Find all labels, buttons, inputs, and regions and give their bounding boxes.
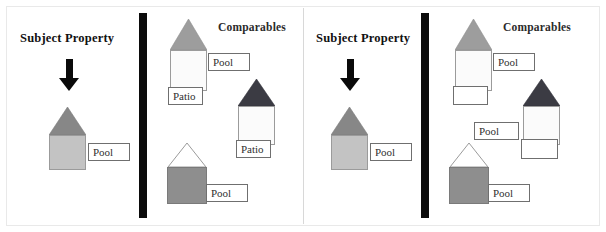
panel-left-subject-label-pool: Pool	[88, 143, 130, 161]
panel-right-comparable-1-label-blank	[453, 86, 488, 105]
panel-left-comparable-1	[170, 19, 207, 91]
roof-icon	[523, 79, 560, 106]
panel-left-divider	[139, 13, 147, 218]
panel-right-divider	[421, 13, 429, 218]
roof-icon	[170, 19, 207, 50]
panel-left-subject-house	[49, 107, 86, 170]
panel-right-comparable-1	[455, 19, 492, 91]
roof-icon	[455, 19, 492, 50]
house-body	[449, 167, 489, 204]
panel-right-comparable-3-label-pool: Pool	[488, 184, 530, 202]
house-body	[331, 135, 368, 170]
house-body	[170, 50, 207, 91]
panel-left-subject-title: Subject Property	[20, 31, 114, 46]
panel-left-comparable-1-label-patio: Patio	[168, 87, 203, 105]
comparables-diagram: Subject Property Pool Comparables Pool P…	[0, 0, 606, 232]
panel-right: Subject Property Pool Comparables Pool	[303, 0, 606, 232]
roof-outline-icon	[449, 142, 489, 168]
house-body	[167, 167, 207, 204]
house-body	[455, 50, 492, 91]
panel-right-subject-label-pool: Pool	[370, 143, 412, 161]
panel-left: Subject Property Pool Comparables Pool P…	[0, 0, 303, 232]
arrow-shaft	[347, 59, 354, 79]
panel-right-subject-title: Subject Property	[316, 31, 410, 46]
roof-icon	[331, 107, 368, 135]
roof-icon	[49, 107, 86, 135]
panel-right-comparable-1-label-pool: Pool	[493, 53, 535, 71]
panel-left-comparable-2-label-patio: Patio	[236, 140, 271, 158]
panel-left-comparables-title: Comparables	[218, 21, 286, 33]
roof-icon	[238, 79, 275, 106]
panel-right-comparable-2-label-pool: Pool	[474, 122, 519, 140]
panel-left-comparable-2	[238, 79, 275, 145]
panel-right-subject-house	[331, 107, 368, 170]
panel-right-comparables-title: Comparables	[503, 21, 571, 33]
arrow-shaft	[66, 59, 73, 79]
panel-right-comparable-2	[523, 79, 560, 145]
house-body	[49, 135, 86, 170]
panel-left-comparable-1-label-pool: Pool	[208, 53, 250, 71]
arrow-head	[59, 78, 79, 91]
arrow-head	[340, 78, 360, 91]
panel-left-comparable-3-label-pool: Pool	[206, 184, 248, 202]
panel-left-down-arrow-icon	[59, 59, 80, 92]
panel-right-comparable-3	[449, 142, 489, 204]
panel-right-comparable-2-label-blank	[521, 139, 558, 159]
roof-outline-icon	[167, 142, 207, 168]
panel-right-down-arrow-icon	[340, 59, 361, 92]
panel-left-comparable-3	[167, 142, 207, 204]
